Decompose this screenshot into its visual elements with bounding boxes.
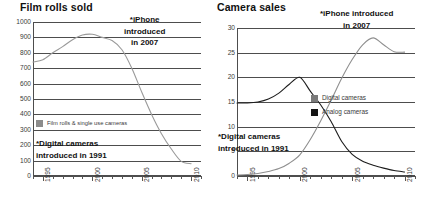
y-tick-label: 100	[20, 157, 31, 164]
x-tick-minor	[201, 176, 202, 179]
chart-title-film-rolls: Film rolls sold	[20, 1, 93, 13]
x-tick-minor	[289, 176, 290, 179]
x-tick-minor	[132, 176, 133, 179]
annotation-line: introduced in 1991	[218, 143, 289, 155]
x-tick-major	[352, 176, 353, 181]
figure-root: Film rolls sold 010020030040050060070080…	[0, 0, 438, 206]
y-tick-label: 400	[20, 111, 31, 118]
legend-label-analog-cameras: Analog cameras	[322, 109, 368, 115]
x-tick-minor	[373, 176, 374, 179]
annotation-iphone-camera-sales: *iPhone introduced in 2007	[320, 8, 393, 31]
x-tick-minor	[310, 176, 311, 179]
y-tick-label: 800	[20, 50, 31, 57]
x-tick-major	[92, 176, 93, 181]
x-tick-minor	[73, 176, 74, 179]
x-tick-minor	[53, 176, 54, 179]
chart-panel-camera-sales: Camera sales 051015202530 19952000200520…	[215, 0, 438, 206]
x-tick-minor	[279, 176, 280, 179]
y-tick-label: 300	[20, 127, 31, 134]
y-tick-label: 0	[27, 173, 31, 180]
legend-label-digital-cameras: Digital cameras	[322, 95, 366, 101]
annotation-line: *iPhone introduced	[320, 8, 393, 20]
annotation-line: *Digital cameras	[218, 131, 289, 143]
x-tick-minor	[152, 176, 153, 179]
legend-item: Analog cameras	[311, 109, 368, 116]
y-tick-label: 1000	[16, 19, 31, 26]
y-tick-label: 25	[228, 49, 235, 56]
annotation-iphone-film-rolls: *iPhone introduced in 2007	[124, 14, 165, 49]
x-tick-major	[191, 176, 192, 181]
legend-swatch-digital-cameras	[311, 95, 318, 102]
annotation-line: *Digital cameras	[36, 138, 107, 150]
x-tick-minor	[122, 176, 123, 179]
x-tick-minor	[331, 176, 332, 179]
x-tick-minor	[258, 176, 259, 179]
y-tick-label: 200	[20, 142, 31, 149]
annotation-digital-camera-sales: *Digital cameras introduced in 1991	[218, 131, 289, 154]
chart-title-camera-sales: Camera sales	[217, 1, 286, 13]
x-tick-minor	[82, 176, 83, 179]
legend-swatch-analog-cameras	[311, 109, 318, 116]
legend-item: Film rolls & single use cameras	[36, 120, 127, 127]
x-tick-minor	[112, 176, 113, 179]
x-tick-minor	[171, 176, 172, 179]
y-tick-label: 0	[231, 173, 235, 180]
annotation-line: *iPhone	[124, 14, 165, 26]
legend-item: Digital cameras	[311, 95, 368, 102]
x-tick-minor	[342, 176, 343, 179]
y-tick-label: 600	[20, 80, 31, 87]
y-tick-label: 10	[228, 123, 235, 130]
annotation-line: in 2007	[320, 20, 393, 32]
y-tick-label: 700	[20, 65, 31, 72]
x-tick-minor	[237, 176, 238, 179]
x-tick-minor	[394, 176, 395, 179]
x-tick-minor	[384, 176, 385, 179]
legend-label-film-rolls: Film rolls & single use cameras	[47, 121, 127, 127]
x-tick-minor	[161, 176, 162, 179]
x-tick-major	[247, 176, 248, 181]
x-tick-minor	[181, 176, 182, 179]
annotation-line: in 2007	[124, 37, 165, 49]
annotation-digital-film-rolls: *Digital cameras introduced in 1991	[36, 138, 107, 161]
x-tick-minor	[321, 176, 322, 179]
x-tick-minor	[33, 176, 34, 179]
y-tick-label: 30	[228, 25, 235, 32]
x-tick-minor	[63, 176, 64, 179]
y-tick-label: 20	[228, 74, 235, 81]
chart-panel-film-rolls: Film rolls sold 010020030040050060070080…	[0, 0, 215, 206]
x-axis-film-rolls: 1995200020052010	[33, 176, 201, 206]
x-tick-minor	[102, 176, 103, 179]
legend-swatch-film-rolls	[36, 120, 43, 127]
x-tick-minor	[415, 176, 416, 179]
x-tick-minor	[363, 176, 364, 179]
x-tick-minor	[268, 176, 269, 179]
y-tick-label: 900	[20, 34, 31, 41]
legend-film-rolls: Film rolls & single use cameras	[36, 120, 127, 130]
annotation-line: introduced	[124, 26, 165, 38]
legend-camera-sales: Digital cameras Analog cameras	[311, 95, 368, 119]
annotation-line: introduced in 1991	[36, 150, 107, 162]
series-line	[237, 77, 405, 172]
y-tick-label: 500	[20, 96, 31, 103]
x-axis-camera-sales: 1995200020052010	[237, 176, 415, 206]
y-tick-label: 15	[228, 99, 235, 106]
